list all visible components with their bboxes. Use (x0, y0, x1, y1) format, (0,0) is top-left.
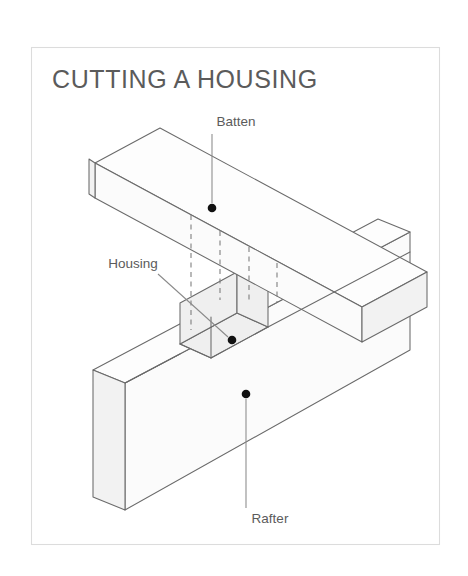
figure-page: CUTTING A HOUSING (0, 0, 468, 576)
rafter-end-grain-face (93, 370, 125, 510)
rafter-label: Rafter (252, 511, 289, 526)
batten-leader-dot (208, 204, 217, 213)
page-title: CUTTING A HOUSING (52, 65, 318, 93)
rafter-leader-dot (242, 390, 251, 399)
batten-label: Batten (216, 114, 255, 129)
batten-left-end-face (89, 159, 95, 198)
cutting-a-housing-diagram: CUTTING A HOUSING (0, 0, 468, 576)
housing-label: Housing (108, 256, 158, 271)
housing-leader-dot (228, 336, 237, 345)
